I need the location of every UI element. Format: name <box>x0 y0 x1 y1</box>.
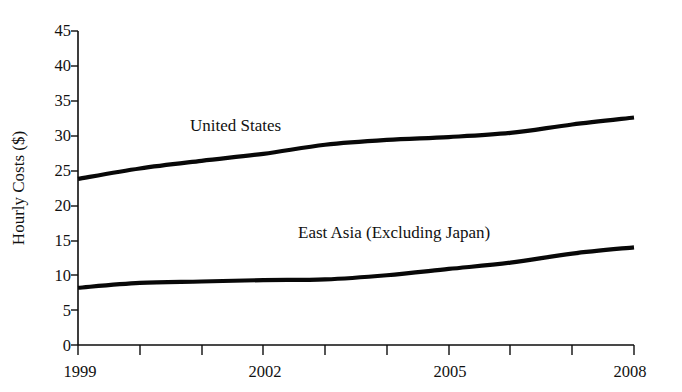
y-tick-label: 45 <box>55 21 72 40</box>
y-axis-title: Hourly Costs ($) <box>9 131 28 245</box>
y-tick-label: 40 <box>55 56 72 75</box>
y-tick-label: 30 <box>55 126 72 145</box>
x-tick-label: 2008 <box>614 362 647 381</box>
y-tick-label: 25 <box>55 161 72 180</box>
y-tick-label: 35 <box>55 91 72 110</box>
x-axis-tick-labels: 1999 2002 2005 2008 <box>64 362 647 381</box>
series-label-east-asia: East Asia (Excluding Japan) <box>298 223 490 242</box>
y-tick-label: 5 <box>63 301 71 320</box>
x-axis <box>78 345 634 355</box>
y-tick-label: 20 <box>55 196 72 215</box>
series-line-east-asia <box>78 247 634 287</box>
y-tick-label: 10 <box>55 266 72 285</box>
x-tick-label: 2002 <box>249 362 282 381</box>
y-tick-label: 15 <box>55 231 72 250</box>
series-label-united-states: United States <box>190 116 281 135</box>
line-chart-canvas: Hourly Costs ($) 0 5 10 15 20 25 30 35 4… <box>0 0 682 392</box>
series-group <box>78 118 634 288</box>
y-axis-tick-labels: 0 5 10 15 20 25 30 35 40 45 <box>55 21 72 355</box>
chart-figure: Hourly Costs ($) 0 5 10 15 20 25 30 35 4… <box>0 0 682 392</box>
y-axis <box>71 31 78 345</box>
series-line-united-states <box>78 118 634 179</box>
x-tick-label: 2005 <box>434 362 467 381</box>
x-tick-label: 1999 <box>64 362 97 381</box>
y-tick-label: 0 <box>63 336 71 355</box>
